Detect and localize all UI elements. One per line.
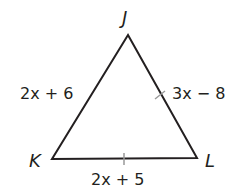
- side-label-kl: 2x + 5: [91, 170, 144, 189]
- vertex-label-l: L: [205, 150, 215, 171]
- side-label-jl: 3x − 8: [172, 84, 225, 103]
- vertex-label-k: K: [29, 150, 42, 171]
- side-label-jk: 2x + 6: [20, 84, 73, 103]
- vertex-label-j: J: [119, 7, 127, 28]
- triangle-diagram: J K L 2x + 6 3x − 8 2x + 5: [0, 0, 246, 194]
